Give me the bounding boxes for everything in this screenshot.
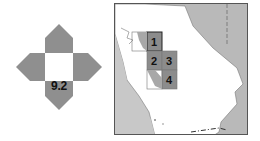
- quadrangle-label-4: 4: [162, 73, 176, 87]
- california-map-shape: [115, 4, 248, 135]
- quadrangle-label-1: 1: [147, 35, 161, 49]
- quadrangle-label-3: 3: [162, 54, 176, 68]
- california-locator-map: 1 2 3 4: [114, 3, 248, 135]
- quadrangle-label-2: 2: [147, 54, 161, 68]
- compass-arrows-icon: [14, 22, 104, 112]
- compass-locator-icon: 9.2: [14, 22, 104, 112]
- figure-number-label: 9.2: [44, 79, 74, 93]
